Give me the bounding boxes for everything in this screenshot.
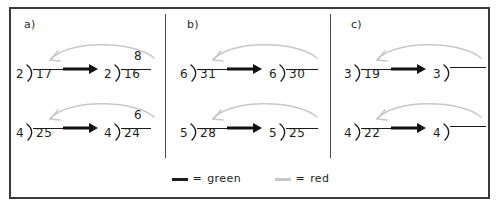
divisor-b1-before: 6 (180, 68, 188, 80)
divisor-a1-after: 2 (104, 68, 112, 80)
light-line-swatch-icon (275, 178, 291, 181)
divisor-b1-after: 6 (269, 68, 277, 80)
panel-label-c: c) (351, 18, 362, 31)
panel-label-a: a) (24, 18, 36, 31)
divisor-b2-before: 5 (180, 127, 188, 139)
division-bracket-a2-after (114, 123, 123, 141)
division-expression-b2-after: 5 25 (269, 115, 331, 141)
division-expression-a2-after: 6 4 24 (104, 109, 166, 141)
division-expression-b1-after: 6 30 (269, 56, 331, 82)
dividend-a2-before: 25 (36, 127, 52, 139)
divisor-a2-after: 4 (104, 127, 112, 139)
division-bracket-c2-before (354, 123, 363, 141)
right-arrow-c2 (391, 122, 427, 134)
right-arrow-b2 (227, 122, 263, 134)
figure-root: a) 2 17 8 2 16 (0, 0, 501, 215)
dark-line-swatch-icon (172, 178, 188, 181)
division-bracket-b2-after (279, 123, 288, 141)
division-bracket-b1-after (279, 64, 288, 82)
division-bracket-b2-before (190, 123, 199, 141)
division-expression-c1-after: 3 (433, 56, 495, 82)
legend-label-green: green (207, 172, 241, 185)
vinculum-c2-after (450, 126, 486, 127)
legend-item-green: =green (172, 171, 241, 185)
division-bracket-a2-before (26, 123, 35, 141)
division-expression-a1-after: 8 2 16 (104, 50, 166, 82)
legend-equals-red: = (296, 172, 306, 185)
divisor-c1-before: 3 (344, 68, 352, 80)
quotient-a1-after: 8 (134, 50, 142, 62)
dividend-b2-after: 25 (289, 127, 305, 139)
right-arrow-b1 (227, 63, 263, 75)
divisor-c2-after: 4 (433, 127, 441, 139)
right-arrow-a1 (63, 63, 99, 75)
division-expression-c2-after: 4 (433, 115, 495, 141)
dividend-a2-after: 24 (124, 127, 140, 139)
divisor-b2-after: 5 (269, 127, 277, 139)
panel-label-b: b) (187, 18, 199, 31)
legend-item-red: =red (275, 171, 330, 185)
division-bracket-b1-before (190, 64, 199, 82)
division-bracket-a1-before (26, 64, 35, 82)
dividend-b1-before: 31 (200, 68, 216, 80)
legend-equals-green: = (193, 172, 203, 185)
quotient-a2-after: 6 (134, 109, 142, 121)
divisor-a1-before: 2 (16, 68, 24, 80)
divisor-a2-before: 4 (16, 127, 24, 139)
right-arrow-a2 (63, 122, 99, 134)
dividend-c2-before: 22 (364, 127, 380, 139)
legend: =green =red (0, 171, 501, 185)
vinculum-c1-after (450, 67, 486, 68)
dividend-b1-after: 30 (289, 68, 305, 80)
right-arrow-c1 (391, 63, 427, 75)
divisor-c2-before: 4 (344, 127, 352, 139)
dividend-a1-after: 16 (124, 68, 140, 80)
dividend-c1-before: 19 (364, 68, 380, 80)
division-bracket-c1-before (354, 64, 363, 82)
dividend-a1-before: 17 (36, 68, 52, 80)
dividend-b2-before: 28 (200, 127, 216, 139)
divisor-c1-after: 3 (433, 68, 441, 80)
division-bracket-a1-after (114, 64, 123, 82)
legend-label-red: red (310, 172, 329, 185)
